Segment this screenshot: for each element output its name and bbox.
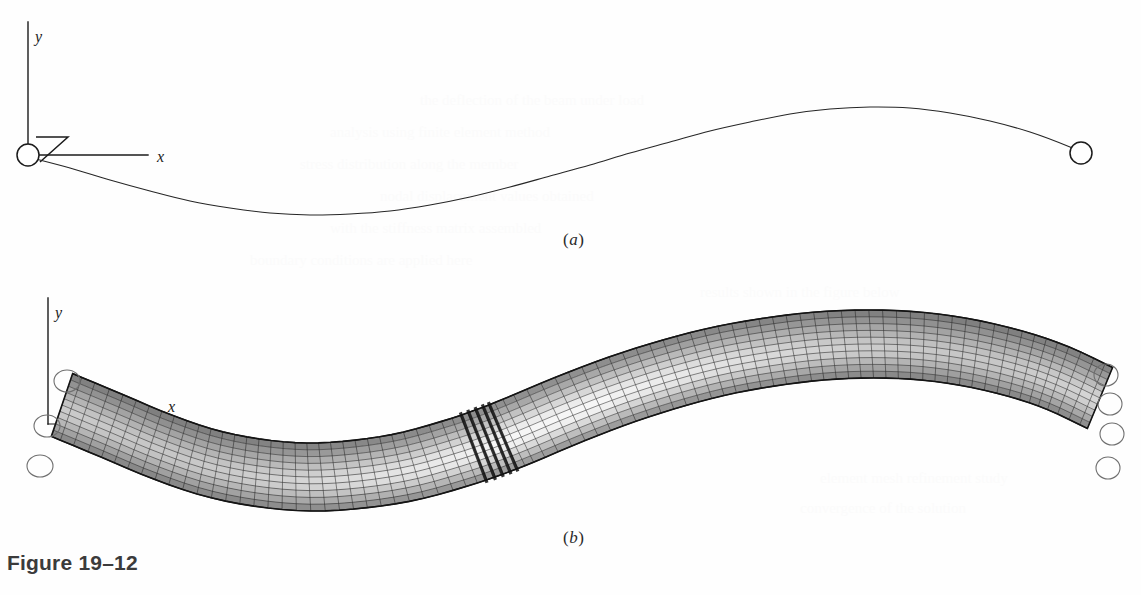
- beam-contour-bands: [51, 310, 1112, 511]
- panel-b-y-axis-label: y: [55, 304, 62, 322]
- support-marker-icon: [1096, 457, 1120, 479]
- support-marker-icon: [1100, 423, 1124, 445]
- support-marker-icon: [27, 455, 53, 477]
- support-marker-icon: [1098, 393, 1122, 415]
- panel-b-x-axis-label: x: [168, 398, 175, 416]
- figure-container: the deflection of the beam under loadana…: [0, 0, 1141, 595]
- panel-b-letter: b: [569, 528, 578, 547]
- panel-b-label: (b): [563, 528, 584, 548]
- panel-b-drawing: [0, 0, 1141, 595]
- figure-caption: Figure 19–12: [7, 551, 138, 575]
